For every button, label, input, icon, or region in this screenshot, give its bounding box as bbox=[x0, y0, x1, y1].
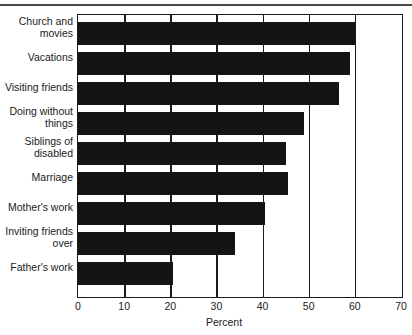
x-axis-title-text: Percent bbox=[206, 316, 242, 328]
category-label-siblings-of-disabled: Siblings of disabled bbox=[0, 136, 73, 159]
x-tick-label-40: 40 bbox=[257, 300, 269, 313]
category-label-marriage: Marriage bbox=[0, 172, 73, 184]
category-axis-labels: Church and movies Vacations Visiting fri… bbox=[0, 14, 73, 298]
x-tick-label-50: 50 bbox=[303, 300, 315, 313]
bar-siblings-of-disabled bbox=[78, 142, 286, 165]
x-axis-title: Percent bbox=[0, 316, 412, 328]
category-label-line1: Vacations bbox=[0, 52, 73, 64]
category-label-visiting-friends: Visiting friends bbox=[0, 82, 73, 94]
x-tick-label-0: 0 bbox=[75, 300, 81, 313]
bar-mother-s-work bbox=[78, 202, 265, 225]
category-label-line1: Father's work bbox=[0, 262, 73, 274]
bar-church-and-movies bbox=[78, 22, 355, 45]
bar-father-s-work bbox=[78, 262, 173, 285]
bar-row bbox=[78, 106, 402, 136]
bar-series bbox=[78, 15, 402, 297]
bar-row bbox=[78, 16, 402, 46]
value-axis-ticks: 010203040506070 bbox=[0, 300, 412, 316]
category-label-line2: things bbox=[0, 118, 73, 130]
x-tick-label-60: 60 bbox=[349, 300, 361, 313]
category-label-inviting-friends-over: Inviting friends over bbox=[0, 226, 73, 249]
category-label-vacations: Vacations bbox=[0, 52, 73, 64]
header-divider-rule bbox=[0, 4, 412, 6]
bar-inviting-friends-over bbox=[78, 232, 235, 255]
category-label-mothers-work: Mother's work bbox=[0, 202, 73, 214]
category-label-doing-without-things: Doing without things bbox=[0, 106, 73, 129]
category-label-line1: Church and bbox=[0, 16, 73, 28]
bar-row bbox=[78, 46, 402, 76]
category-label-line1: Inviting friends bbox=[0, 226, 73, 238]
plot-area bbox=[77, 14, 403, 298]
category-label-line1: Visiting friends bbox=[0, 82, 73, 94]
bar-marriage bbox=[78, 172, 288, 195]
x-tick-label-70: 70 bbox=[395, 300, 407, 313]
category-label-line1: Siblings of bbox=[0, 136, 73, 148]
x-tick-label-30: 30 bbox=[211, 300, 223, 313]
bar-visiting-friends bbox=[78, 82, 339, 105]
bar-row bbox=[78, 136, 402, 166]
category-label-church-and-movies: Church and movies bbox=[0, 16, 73, 39]
category-label-fathers-work: Father's work bbox=[0, 262, 73, 274]
category-label-line1: Doing without bbox=[0, 106, 73, 118]
category-label-line2: movies bbox=[0, 28, 73, 40]
bar-row bbox=[78, 196, 402, 226]
bar-row bbox=[78, 166, 402, 196]
x-tick-label-10: 10 bbox=[118, 300, 130, 313]
bar-vacations bbox=[78, 52, 350, 75]
category-label-line1: Marriage bbox=[0, 172, 73, 184]
bar-row bbox=[78, 226, 402, 256]
category-label-line2: over bbox=[0, 238, 73, 250]
bar-row bbox=[78, 256, 402, 286]
x-tick-label-20: 20 bbox=[164, 300, 176, 313]
category-label-line2: disabled bbox=[0, 148, 73, 160]
bar-doing-without-things bbox=[78, 112, 304, 135]
category-label-line1: Mother's work bbox=[0, 202, 73, 214]
bar-row bbox=[78, 76, 402, 106]
bar-chart-figure: Church and movies Vacations Visiting fri… bbox=[0, 0, 412, 335]
